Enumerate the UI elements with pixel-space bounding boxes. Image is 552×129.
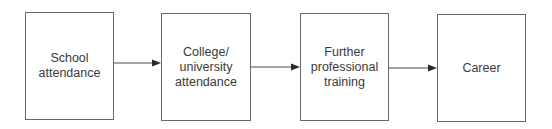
- arrow-training-to-career: [389, 65, 437, 72]
- arrow-college-to-training: [251, 64, 300, 71]
- edges-layer: [0, 0, 552, 129]
- arrow-school-to-college: [114, 60, 161, 67]
